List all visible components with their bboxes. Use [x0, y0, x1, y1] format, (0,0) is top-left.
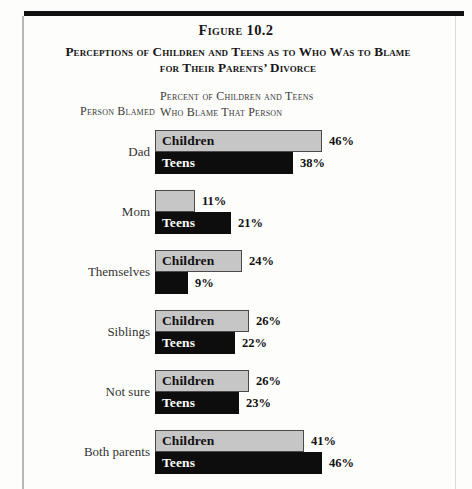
bar-value-label: 23% — [246, 396, 271, 411]
bar-group: Mom11%Teens21% — [0, 190, 472, 234]
figure-panel: Figure 10.2 Perceptions of Children and … — [0, 0, 472, 489]
bar-children-not-sure: Children — [155, 370, 249, 392]
bar-chart-plot: DadChildren46%Teens38%Mom11%Teens21%Them… — [0, 0, 472, 489]
bar-value-label: 26% — [256, 374, 281, 389]
bar-series-label: Children — [162, 373, 214, 389]
bar-group: Not sureChildren26%Teens23% — [0, 370, 472, 414]
bar-children-both-parents: Children — [155, 430, 304, 452]
category-label-dad: Dad — [10, 144, 150, 160]
category-label-both-parents: Both parents — [10, 444, 150, 460]
bar-series-label: Teens — [162, 395, 195, 411]
bar-group: ThemselvesChildren24%9% — [0, 250, 472, 294]
bar-series-label: Children — [162, 313, 214, 329]
bar-value-label: 41% — [311, 434, 336, 449]
bar-teens-siblings: Teens — [155, 332, 235, 354]
bar-group: Both parentsChildren41%Teens46% — [0, 430, 472, 474]
bar-value-label: 38% — [300, 156, 325, 171]
bar-value-label: 22% — [242, 336, 267, 351]
bar-value-label: 24% — [249, 254, 274, 269]
category-label-not-sure: Not sure — [10, 384, 150, 400]
category-label-themselves: Themselves — [10, 264, 150, 280]
bar-series-label: Children — [162, 133, 214, 149]
bar-children-siblings: Children — [155, 310, 249, 332]
bar-children-themselves: Children — [155, 250, 242, 272]
bar-value-label: 9% — [195, 276, 214, 291]
bar-value-label: 46% — [329, 134, 354, 149]
bar-group: DadChildren46%Teens38% — [0, 130, 472, 174]
bar-teens-both-parents: Teens — [155, 452, 322, 474]
bar-group: SiblingsChildren26%Teens22% — [0, 310, 472, 354]
bar-series-label: Teens — [162, 215, 195, 231]
bar-series-label: Teens — [162, 155, 195, 171]
bar-children-mom — [155, 190, 195, 212]
bar-series-label: Children — [162, 433, 214, 449]
category-label-siblings: Siblings — [10, 324, 150, 340]
category-label-mom: Mom — [10, 204, 150, 220]
bar-teens-themselves — [155, 272, 188, 294]
bar-teens-mom: Teens — [155, 212, 231, 234]
bar-series-label: Children — [162, 253, 214, 269]
bar-teens-not-sure: Teens — [155, 392, 239, 414]
bar-series-label: Teens — [162, 335, 195, 351]
bar-value-label: 11% — [202, 194, 226, 209]
bar-series-label: Teens — [162, 455, 195, 471]
bar-value-label: 46% — [329, 456, 354, 471]
bar-children-dad: Children — [155, 130, 322, 152]
bar-teens-dad: Teens — [155, 152, 293, 174]
bar-value-label: 21% — [238, 216, 263, 231]
bar-value-label: 26% — [256, 314, 281, 329]
